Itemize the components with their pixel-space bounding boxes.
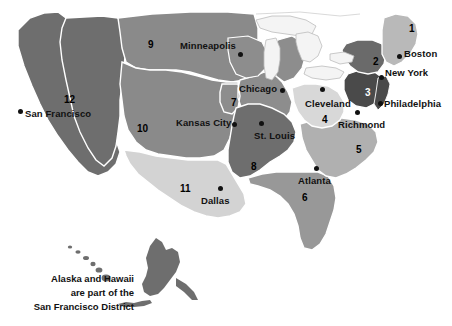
city-dot-icon <box>314 166 319 171</box>
district-number-8[interactable]: 8 <box>251 162 257 172</box>
city-dot-icon <box>355 110 360 115</box>
city-label: St. Louis <box>254 131 295 141</box>
city-dot-icon <box>397 54 402 59</box>
district-region-8 <box>228 104 296 178</box>
city-dot-icon <box>18 109 23 114</box>
district-number-6[interactable]: 6 <box>302 193 308 203</box>
city-dot-icon <box>232 122 237 127</box>
city-label: Chicago <box>239 84 277 94</box>
district-number-3[interactable]: 3 <box>365 88 371 98</box>
city-label: New York <box>385 68 428 78</box>
district-number-9[interactable]: 9 <box>148 40 154 50</box>
city-dot-icon <box>378 101 383 106</box>
district-number-4[interactable]: 4 <box>322 115 328 125</box>
federal-reserve-districts-map: 1 2 3 4 5 6 7 8 9 10 11 12 San Francisco… <box>0 0 452 326</box>
city-label: Cleveland <box>305 99 351 109</box>
caption-line-2: are part of the <box>6 286 134 300</box>
city-dot-icon <box>320 87 325 92</box>
district-number-7[interactable]: 7 <box>231 98 237 108</box>
city-dot-icon <box>379 75 384 80</box>
great-lakes-erie <box>304 66 344 80</box>
alaska-hawaii-caption: Alaska and Hawaii are part of the San Fr… <box>6 272 134 313</box>
city-label: Philadelphia <box>384 99 441 109</box>
alaska-inset <box>142 238 180 296</box>
northern-border <box>256 12 360 16</box>
city-label: Boston <box>404 49 437 59</box>
city-label: Richmond <box>338 120 385 130</box>
city-label: Dallas <box>201 196 230 206</box>
district-number-2[interactable]: 2 <box>373 57 379 67</box>
district-number-10[interactable]: 10 <box>137 124 148 134</box>
city-label: Atlanta <box>298 176 331 186</box>
city-dot-icon <box>238 52 243 57</box>
district-number-5[interactable]: 5 <box>356 145 362 155</box>
caption-line-1: Alaska and Hawaii <box>6 272 134 286</box>
city-label: Kansas City <box>176 118 231 128</box>
city-dot-icon <box>280 88 285 93</box>
caption-line-3: San Francisco District <box>6 300 134 314</box>
city-label: San Francisco <box>25 109 91 119</box>
city-dot-icon <box>218 186 223 191</box>
city-dot-icon <box>259 121 264 126</box>
alaska-inset-tail <box>176 278 198 300</box>
district-number-12[interactable]: 12 <box>64 95 75 105</box>
city-label: Minneapolis <box>180 41 236 51</box>
district-number-1[interactable]: 1 <box>409 24 415 34</box>
district-number-11[interactable]: 11 <box>180 184 191 194</box>
